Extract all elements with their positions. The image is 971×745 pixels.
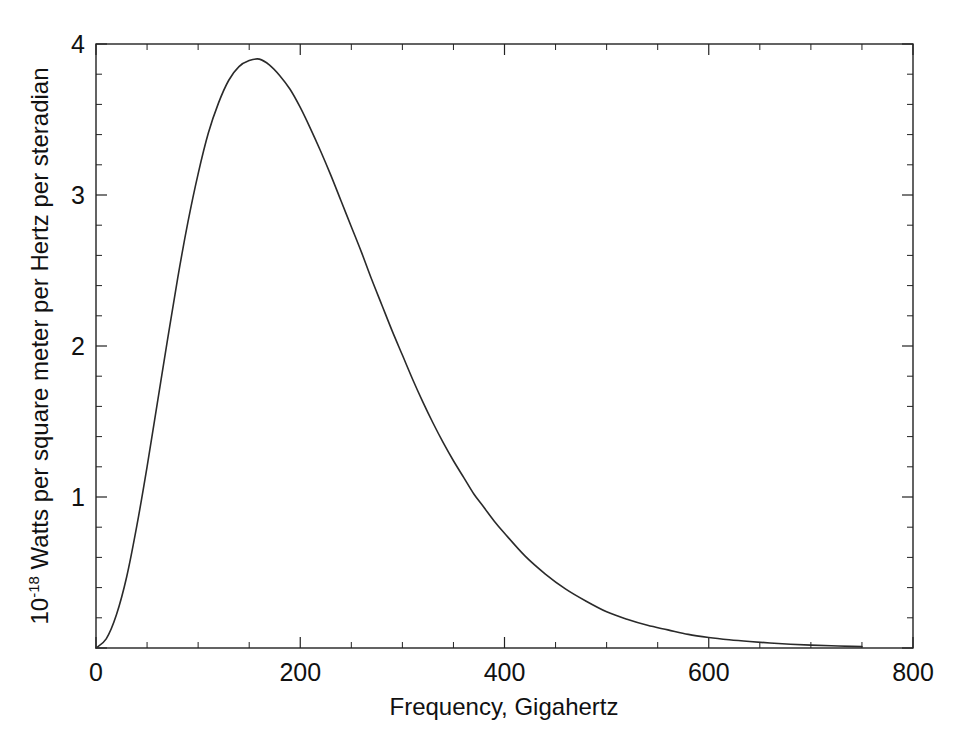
y-axis-label-exponent: -18 xyxy=(25,576,42,598)
x-tick-label: 800 xyxy=(892,658,934,686)
y-axis-label: 10-18 Watts per square meter per Hertz p… xyxy=(25,67,53,624)
y-tick-label: 2 xyxy=(71,332,85,360)
y-tick-label: 3 xyxy=(71,181,85,209)
y-axis-label-text: Watts per square meter per Hertz per ste… xyxy=(26,67,53,576)
x-tick-label: 0 xyxy=(89,658,103,686)
y-tick-label: 4 xyxy=(71,30,85,58)
chart-background xyxy=(0,0,971,745)
y-axis-label-mantissa: 10 xyxy=(26,598,53,625)
x-tick-label: 600 xyxy=(688,658,730,686)
chart-figure: 0200400600800 1234 Frequency, Gigahertz … xyxy=(0,0,971,745)
y-tick-label: 1 xyxy=(71,483,85,511)
x-tick-label: 200 xyxy=(279,658,321,686)
x-axis-label: Frequency, Gigahertz xyxy=(390,693,619,720)
blackbody-spectrum-chart: 0200400600800 1234 Frequency, Gigahertz … xyxy=(0,0,971,745)
x-tick-label: 400 xyxy=(484,658,526,686)
